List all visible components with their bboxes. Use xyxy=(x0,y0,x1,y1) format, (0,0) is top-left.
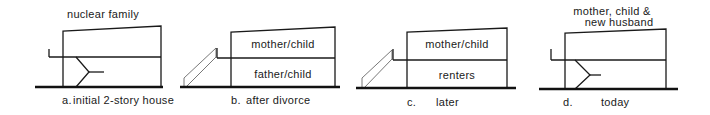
exterior-stair-icon-b xyxy=(184,48,217,87)
panel-d: mother, child & new husband d. today xyxy=(539,5,678,108)
panel-b-caption-letter: b. xyxy=(231,94,241,106)
room-label-c-upper: mother/child xyxy=(425,38,489,50)
panel-a-title: nuclear family xyxy=(67,8,139,20)
exterior-stair-icon-c xyxy=(362,49,393,88)
interior-stair-icon-d xyxy=(575,60,601,89)
interior-stair-icon-a xyxy=(76,57,104,87)
panel-c: mother/child renters c. later xyxy=(356,28,516,108)
panel-d-caption: today xyxy=(601,96,630,108)
panel-d-caption-letter: d. xyxy=(563,96,573,108)
room-label-c-lower: renters xyxy=(439,69,476,81)
house-outline-a xyxy=(49,26,161,87)
house-evolution-diagram: nuclear family a. initial 2-story house … xyxy=(0,0,710,115)
panel-a-caption: initial 2-story house xyxy=(73,94,174,106)
panel-b: mother/child father/child b. after divor… xyxy=(180,27,340,106)
panel-c-caption-letter: c. xyxy=(407,96,416,108)
panel-a-caption-letter: a. xyxy=(62,94,72,106)
panel-d-title-line2: new husband xyxy=(585,16,654,28)
panel-b-caption: after divorce xyxy=(246,94,310,106)
panel-a: nuclear family a. initial 2-story house xyxy=(35,8,174,106)
house-outline-d xyxy=(551,29,666,89)
room-label-b-upper: mother/child xyxy=(251,38,315,50)
panel-c-caption: later xyxy=(436,96,459,108)
room-label-b-lower: father/child xyxy=(254,68,311,80)
